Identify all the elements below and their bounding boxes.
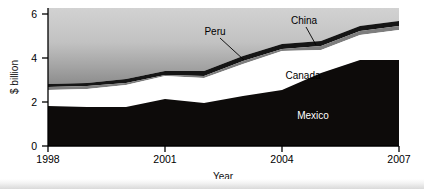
- y-tick-label-2: 2: [31, 96, 37, 108]
- series-label-peru: Peru: [204, 26, 225, 37]
- y-tick-label-0: 0: [31, 140, 37, 152]
- series-label-canada: Canada: [285, 70, 320, 81]
- stacked-area-chart: 0 2 4 6 1998 2001 2004 2007 $ billion Ye…: [0, 0, 424, 189]
- y-tick-label-6: 6: [31, 8, 37, 20]
- x-tick-label-2001: 2001: [153, 153, 177, 165]
- x-tick-label-2007: 2007: [387, 153, 411, 165]
- y-tick-label-4: 4: [31, 52, 37, 64]
- x-tick-label-2004: 2004: [270, 153, 294, 165]
- chart-figure: 0 2 4 6 1998 2001 2004 2007 $ billion Ye…: [0, 0, 424, 189]
- y-axis-title: $ billion: [9, 60, 20, 94]
- x-tick-label-1998: 1998: [36, 153, 60, 165]
- series-label-china: China: [291, 15, 318, 26]
- y-axis-ticks: [42, 14, 48, 146]
- x-axis-ticks: [48, 146, 399, 152]
- page-edge-strip: [0, 179, 424, 189]
- series-label-mexico: Mexico: [297, 110, 329, 121]
